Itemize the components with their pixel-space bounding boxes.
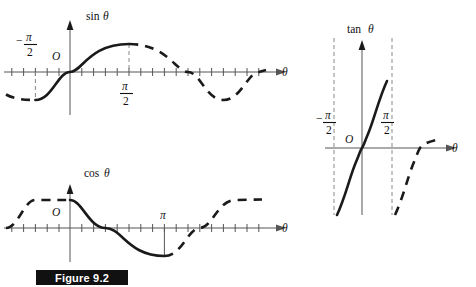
sine-y-axis-arrow	[67, 20, 74, 30]
sine-axis-label-fn: sin	[86, 10, 100, 22]
sine-label-pos-num: π	[122, 80, 129, 92]
cosine-axis-label-theta: θ	[104, 167, 110, 179]
tangent-x-axis-label: θ	[452, 142, 458, 154]
figure-caption-text: Figure 9.2	[55, 272, 109, 284]
sine-label-neg-den: 2	[27, 46, 33, 58]
sine-curve-dashed-left	[6, 95, 35, 101]
sine-label-neg-num: π	[26, 31, 33, 43]
tangent-label-pos-den: 2	[384, 124, 390, 136]
sine-label-pos-half-pi: π 2	[120, 80, 133, 107]
cosine-y-axis-arrow	[67, 184, 74, 194]
sine-label-neg-half-pi: − π 2	[16, 31, 37, 58]
tangent-axis-label-fn: tan	[347, 23, 361, 35]
cosine-panel: cos θ θ O π	[4, 167, 288, 262]
tangent-label-neg-den: 2	[326, 124, 332, 136]
cosine-label-pi: π	[160, 209, 167, 221]
sine-label-neg-sign: −	[16, 34, 23, 46]
tangent-y-axis-arrow	[359, 40, 366, 50]
tangent-label-pos-num: π	[383, 109, 390, 121]
cosine-axis-label-fn: cos	[84, 167, 100, 179]
tangent-label-neg-num: π	[325, 109, 332, 121]
sine-axis-label-theta: θ	[103, 10, 109, 22]
sine-x-axis-label: θ	[282, 66, 288, 78]
cosine-origin-label: O	[52, 206, 61, 218]
cosine-x-axis-label: θ	[282, 222, 288, 234]
sine-label-pos-den: 2	[123, 95, 129, 107]
trig-graphs-svg: sin θ θ O − π 2 π 2	[0, 0, 476, 287]
figure-caption-box: Figure 9.2	[36, 270, 128, 285]
figure-9-2: sin θ θ O − π 2 π 2	[0, 0, 476, 287]
tangent-curve-dashed	[395, 140, 436, 215]
tangent-panel: tan θ θ O − π 2 π 2	[316, 23, 458, 215]
tangent-label-neg-half-pi: − π 2	[316, 109, 336, 136]
tangent-origin-label: O	[345, 133, 354, 145]
sine-origin-label: O	[52, 50, 61, 62]
tangent-label-neg-sign: −	[316, 112, 323, 124]
tangent-axis-label-theta: θ	[368, 23, 374, 35]
cosine-curve-dashed-left	[6, 200, 70, 228]
sine-panel: sin θ θ O − π 2 π 2	[4, 10, 288, 115]
